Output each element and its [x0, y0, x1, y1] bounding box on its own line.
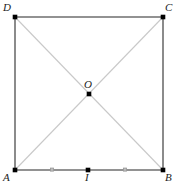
label-vertex-C: C	[165, 2, 172, 13]
label-point-I: I	[85, 172, 89, 183]
point-D-marker	[13, 15, 18, 20]
point-A-marker	[13, 168, 18, 173]
label-vertex-B: B	[165, 172, 172, 183]
point-O-marker	[87, 92, 92, 97]
tick-mark-ai-icon	[51, 168, 54, 171]
tick-mark-ib-icon	[124, 168, 127, 171]
figure-canvas	[0, 0, 174, 185]
label-vertex-A: A	[3, 172, 10, 183]
point-C-marker	[161, 15, 166, 20]
label-vertex-D: D	[3, 2, 11, 13]
geometry-figure: D C A B O I	[0, 0, 174, 185]
label-point-O: O	[84, 79, 92, 90]
